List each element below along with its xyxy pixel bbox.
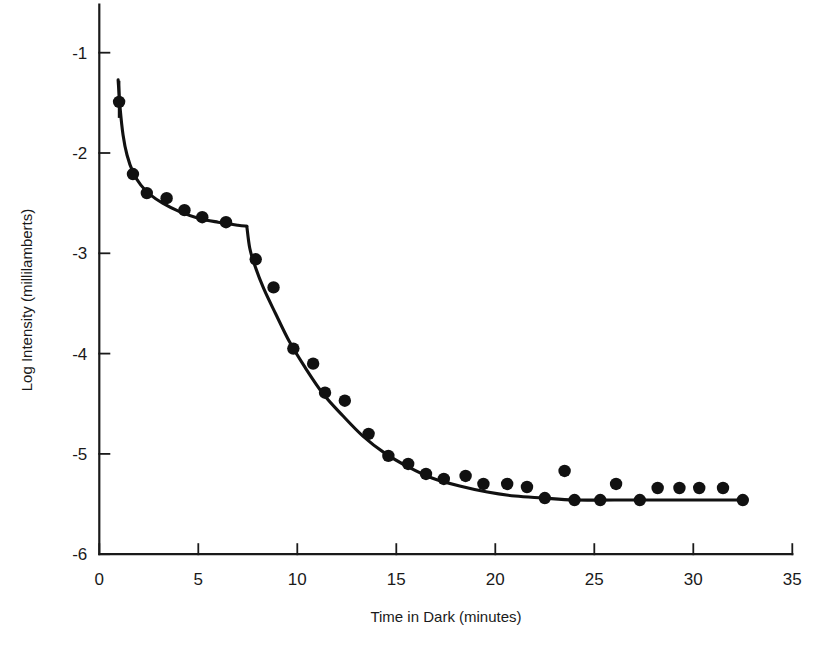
- data-point-16: [420, 468, 432, 480]
- data-point-15: [402, 458, 414, 470]
- chart-canvas: -1-2-3-4-5-605101520253035 Time in Dark …: [0, 0, 833, 646]
- data-point-28: [651, 482, 663, 494]
- data-point-31: [717, 482, 729, 494]
- x-tick-label-4: 20: [486, 570, 505, 589]
- y-axis-label: Log Intensity (millilamberts): [18, 209, 35, 392]
- data-point-7: [250, 253, 262, 265]
- data-point-2: [141, 187, 153, 199]
- data-point-1: [127, 168, 139, 180]
- data-point-18: [459, 470, 471, 482]
- data-point-12: [339, 395, 351, 407]
- y-tick-label-1: -2: [72, 144, 87, 163]
- axis-tick-labels: -1-2-3-4-5-605101520253035: [72, 44, 802, 590]
- x-tick-label-6: 30: [684, 570, 703, 589]
- fit-curve-rod-branch: [247, 226, 743, 500]
- x-tick-label-3: 15: [387, 570, 406, 589]
- data-point-11: [319, 387, 331, 399]
- data-point-17: [438, 473, 450, 485]
- dark-adaptation-figure: -1-2-3-4-5-605101520253035 Time in Dark …: [0, 0, 833, 646]
- y-tick-label-4: -5: [72, 445, 87, 464]
- data-point-25: [594, 494, 606, 506]
- data-point-22: [539, 492, 551, 504]
- x-tick-label-7: 35: [783, 570, 802, 589]
- data-point-20: [501, 478, 513, 490]
- data-point-5: [196, 211, 208, 223]
- y-tick-label-2: -3: [72, 244, 87, 263]
- y-tick-label-0: -1: [72, 44, 87, 63]
- y-tick-label-3: -4: [72, 345, 87, 364]
- x-tick-label-2: 10: [288, 570, 307, 589]
- data-point-21: [521, 481, 533, 493]
- data-point-13: [362, 428, 374, 440]
- axes: [99, 5, 792, 555]
- data-point-29: [673, 482, 685, 494]
- data-point-26: [610, 478, 622, 490]
- data-point-4: [178, 204, 190, 216]
- data-point-24: [568, 494, 580, 506]
- fit-curves: [118, 80, 743, 500]
- data-point-10: [307, 357, 319, 369]
- data-point-19: [477, 478, 489, 490]
- data-point-30: [693, 482, 705, 494]
- x-tick-label-1: 5: [194, 570, 203, 589]
- data-point-27: [634, 494, 646, 506]
- data-point-3: [160, 192, 172, 204]
- y-tick-label-5: -6: [72, 545, 87, 564]
- data-point-9: [287, 342, 299, 354]
- fit-curve-cone-branch: [118, 80, 247, 226]
- x-axis-label: Time in Dark (minutes): [370, 608, 521, 625]
- data-point-6: [220, 216, 232, 228]
- data-point-23: [558, 465, 570, 477]
- data-points: [113, 96, 749, 507]
- x-tick-label-0: 0: [95, 570, 104, 589]
- data-point-8: [267, 281, 279, 293]
- data-point-32: [737, 494, 749, 506]
- data-point-0: [113, 96, 125, 108]
- axis-spines: [99, 5, 792, 555]
- data-point-14: [382, 450, 394, 462]
- x-tick-label-5: 25: [585, 570, 604, 589]
